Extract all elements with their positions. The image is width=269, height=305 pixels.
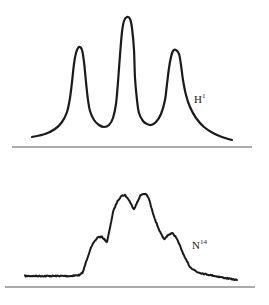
panel-h1	[12, 17, 252, 147]
n14-label-base: N	[192, 239, 200, 251]
h1-label-base: H	[194, 93, 202, 105]
n14-label: N14	[192, 240, 207, 251]
spectra-figure	[0, 0, 269, 305]
h1-label-superscript: 1	[202, 92, 206, 100]
h1-spectrum-curve	[32, 17, 232, 140]
n14-label-superscript: 14	[200, 238, 207, 246]
h1-label: H1	[194, 94, 205, 105]
panel-n14	[5, 194, 255, 287]
n14-spectrum-curve	[25, 194, 237, 280]
